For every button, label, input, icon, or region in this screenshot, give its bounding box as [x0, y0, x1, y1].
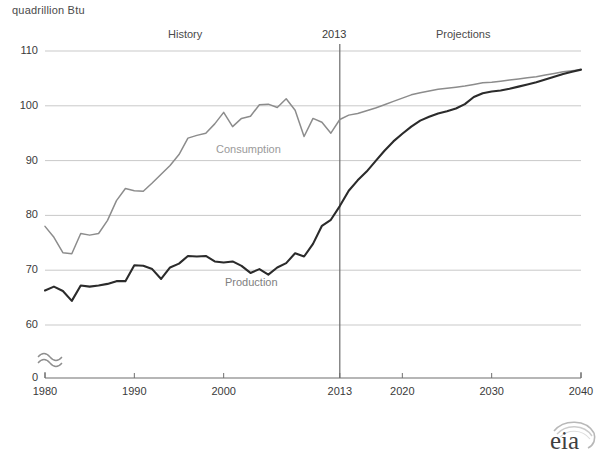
y-tick-label-110: 110	[8, 44, 38, 56]
x-tick-label-2020: 2020	[382, 385, 422, 397]
y-tick-label-90: 90	[8, 154, 38, 166]
y-tick-label-70: 70	[8, 263, 38, 275]
x-tick-label-2000: 2000	[204, 385, 244, 397]
eia-logo-text: eia	[550, 427, 579, 454]
axis-group	[45, 372, 581, 378]
y-axis-unit-label: quadrillion Btu	[12, 4, 85, 16]
y-tick-label-80: 80	[8, 208, 38, 220]
history-region-label: History	[168, 28, 202, 40]
y-tick-label-0: 0	[8, 371, 38, 383]
projections-region-label: Projections	[436, 28, 490, 40]
series-line-production	[45, 70, 581, 301]
x-tick-label-2030: 2030	[472, 385, 512, 397]
eia-logo: eia	[540, 415, 600, 455]
divider-year-label: 2013	[322, 28, 346, 40]
series-label-consumption: Consumption	[216, 143, 281, 155]
axis-break-symbol	[38, 354, 62, 367]
series-line-consumption	[45, 70, 581, 254]
x-tick-label-1980: 1980	[25, 385, 65, 397]
plot-area	[0, 0, 602, 458]
y-tick-label-100: 100	[8, 99, 38, 111]
x-tick-label-1990: 1990	[114, 385, 154, 397]
y-tick-label-60: 60	[8, 318, 38, 330]
x-tick-label-2013: 2013	[320, 385, 360, 397]
series-lines-group	[45, 70, 581, 301]
x-tick-label-2040: 2040	[561, 385, 601, 397]
series-label-production: Production	[225, 276, 278, 288]
chart-container: quadrillion Btu History 2013 Projections…	[0, 0, 602, 458]
